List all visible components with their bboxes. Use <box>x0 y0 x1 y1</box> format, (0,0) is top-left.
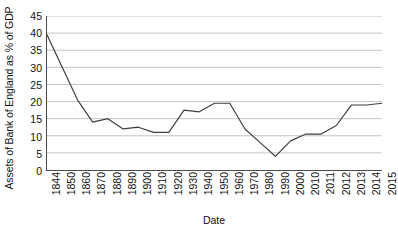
x-tick-label: 2015 <box>387 172 398 195</box>
x-tick-label: 2000 <box>295 172 306 195</box>
x-tick-label: 1844 <box>51 172 62 195</box>
x-tick-label: 2013 <box>356 172 367 195</box>
x-tick-label: 1930 <box>188 172 199 195</box>
plot-area <box>46 16 382 171</box>
x-tick-label: 1960 <box>234 172 245 195</box>
y-tick-label: 45 <box>30 11 42 22</box>
x-axis-tick-labels: 1844185018601870188018901900191019201930… <box>46 172 382 212</box>
x-tick-label: 1850 <box>66 172 77 195</box>
y-axis-title: Assets of Bank of England as % of GDP <box>0 0 18 196</box>
plot-svg <box>47 16 382 170</box>
y-tick-label: 0 <box>36 166 42 177</box>
x-tick-label: 1900 <box>142 172 153 195</box>
x-tick-label: 2010 <box>310 172 321 195</box>
x-tick-label: 1990 <box>280 172 291 195</box>
y-tick-label: 25 <box>30 80 42 91</box>
x-tick-label: 1860 <box>81 172 92 195</box>
x-tick-label: 1950 <box>219 172 230 195</box>
x-tick-label: 2014 <box>371 172 382 195</box>
x-tick-label: 1980 <box>264 172 275 195</box>
x-tick-label: 1870 <box>96 172 107 195</box>
x-tick-label: 2012 <box>341 172 352 195</box>
x-tick-label: 1940 <box>203 172 214 195</box>
x-tick-label: 1920 <box>173 172 184 195</box>
y-tick-label: 40 <box>30 28 42 39</box>
x-tick-label: 1970 <box>249 172 260 195</box>
x-tick-label: 1890 <box>127 172 138 195</box>
x-tick-label: 2011 <box>325 172 336 195</box>
y-axis-title-text: Assets of Bank of England as % of GDP <box>3 6 15 189</box>
x-tick-label: 1910 <box>157 172 168 195</box>
x-axis-title: Date <box>46 214 382 226</box>
y-tick-label: 15 <box>30 114 42 125</box>
data-series-line <box>47 35 382 156</box>
y-tick-label: 20 <box>30 97 42 108</box>
y-tick-label: 10 <box>30 131 42 142</box>
y-tick-label: 5 <box>36 149 42 160</box>
y-tick-label: 35 <box>30 45 42 56</box>
series-line <box>47 35 382 156</box>
y-axis-tick-labels: 051015202530354045 <box>18 0 44 196</box>
x-tick-label: 1880 <box>112 172 123 195</box>
y-tick-label: 30 <box>30 62 42 73</box>
gridlines <box>47 16 382 153</box>
